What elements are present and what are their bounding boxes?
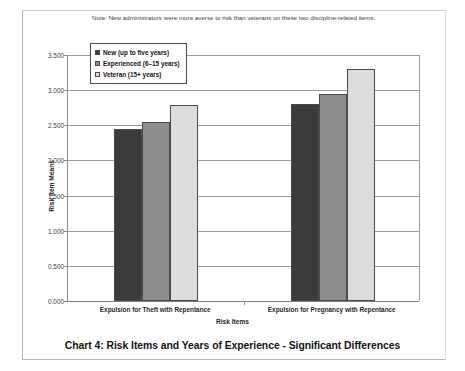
legend-item-label: New (up to five years) — [103, 49, 169, 56]
legend-item: New (up to five years) — [95, 47, 180, 58]
y-axis-tick-label: 0.000 — [48, 298, 64, 305]
bar — [347, 69, 375, 301]
bar — [291, 104, 319, 301]
y-axis-tick-mark — [64, 90, 68, 91]
legend-swatch-icon — [95, 61, 100, 66]
y-axis-tick-label: 1.500 — [48, 192, 64, 199]
x-axis-tick-mark — [244, 301, 245, 305]
legend-item: Experienced (6–15 years) — [95, 58, 180, 69]
legend-swatch-icon — [95, 50, 100, 55]
y-axis-tick-mark — [64, 55, 68, 56]
legend-swatch-icon — [95, 72, 100, 77]
chart-note: Note: New administrators were more avers… — [92, 13, 452, 22]
y-axis-tick-label: 3.500 — [48, 52, 64, 59]
chart-legend: New (up to five years)Experienced (6–15 … — [90, 43, 187, 84]
chart-caption: Chart 4: Risk Items and Years of Experie… — [0, 340, 465, 351]
y-axis-tick-label: 0.500 — [48, 262, 64, 269]
y-axis-tick-label: 2.000 — [48, 157, 64, 164]
x-axis-label: Risk Items — [0, 318, 465, 325]
y-axis-tick-mark — [64, 160, 68, 161]
legend-item-label: Experienced (6–15 years) — [103, 60, 180, 67]
bar — [170, 105, 198, 301]
y-axis-tick-label: 3.000 — [48, 87, 64, 94]
y-axis-tick-label: 2.500 — [48, 122, 64, 129]
y-axis-label: Risk Item Means — [48, 160, 55, 212]
legend-item: Veteran (15+ years) — [95, 69, 180, 80]
y-axis-tick-mark — [64, 196, 68, 197]
legend-item-label: Veteran (15+ years) — [103, 71, 161, 78]
plot-area: 0.0000.5001.0001.5002.0002.5003.0003.500 — [67, 55, 420, 301]
y-axis-tick-label: 1.000 — [48, 227, 64, 234]
y-axis-tick-mark — [64, 125, 68, 126]
x-axis-category-label: Expulsion for Theft with Repentance — [100, 306, 211, 313]
y-axis-tick-mark — [64, 301, 68, 302]
y-axis-tick-mark — [64, 231, 68, 232]
bar — [114, 129, 142, 301]
y-axis-tick-mark — [64, 266, 68, 267]
x-axis-category-label: Expulsion for Pregnancy with Repentance — [268, 306, 396, 313]
bar — [142, 122, 170, 301]
bar — [319, 94, 347, 301]
